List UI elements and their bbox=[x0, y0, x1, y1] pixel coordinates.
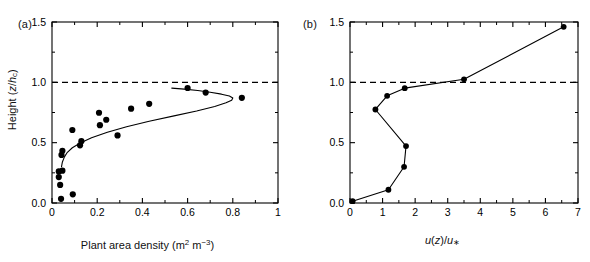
data-point bbox=[401, 164, 407, 170]
panel-b-xlabel: u(z)/u∗ bbox=[295, 234, 590, 247]
y-tick-label: 1.0 bbox=[329, 76, 344, 88]
x-tick-label: 1 bbox=[380, 206, 386, 218]
series-line bbox=[61, 88, 232, 167]
y-tick-label: 0.0 bbox=[31, 197, 46, 209]
axes-frame bbox=[52, 22, 278, 203]
panel-b-plot: 012345670.00.51.01.5 bbox=[295, 0, 590, 262]
x-tick-label: 1 bbox=[275, 206, 281, 218]
panel-b: (b) 012345670.00.51.01.5 u(z)/u∗ bbox=[295, 0, 590, 262]
data-point bbox=[386, 187, 392, 193]
data-point bbox=[384, 93, 390, 99]
data-point bbox=[128, 106, 134, 112]
y-tick-label: 0.5 bbox=[31, 136, 46, 148]
data-point bbox=[70, 191, 76, 197]
data-point bbox=[59, 148, 65, 154]
panel-a-plot: 00.20.40.60.810.00.51.01.5 bbox=[0, 0, 295, 262]
axes-frame bbox=[350, 22, 578, 203]
data-point bbox=[403, 143, 409, 149]
x-tick-label: 0.2 bbox=[90, 206, 105, 218]
data-point bbox=[239, 95, 245, 101]
data-point bbox=[402, 85, 408, 91]
data-point bbox=[96, 110, 102, 116]
x-tick-label: 2 bbox=[412, 206, 418, 218]
x-tick-label: 0.4 bbox=[135, 206, 150, 218]
figure-container: (a) Height (z/hc) 00.20.40.60.810.00.51.… bbox=[0, 0, 590, 262]
data-point bbox=[56, 174, 62, 180]
data-point bbox=[561, 24, 567, 30]
data-point bbox=[57, 182, 63, 188]
y-tick-label: 1.5 bbox=[329, 16, 344, 28]
series-line bbox=[353, 27, 564, 201]
data-point bbox=[58, 196, 64, 202]
data-point bbox=[350, 198, 356, 204]
data-point bbox=[461, 76, 467, 82]
x-tick-label: 0.8 bbox=[225, 206, 240, 218]
x-tick-label: 4 bbox=[477, 206, 483, 218]
data-point bbox=[114, 132, 120, 138]
x-tick-label: 7 bbox=[575, 206, 581, 218]
panel-a: (a) Height (z/hc) 00.20.40.60.810.00.51.… bbox=[0, 0, 295, 262]
data-point bbox=[146, 101, 152, 107]
y-tick-label: 0.0 bbox=[329, 197, 344, 209]
data-point bbox=[59, 168, 65, 174]
data-point bbox=[103, 117, 109, 123]
x-tick-label: 0 bbox=[49, 206, 55, 218]
x-tick-label: 3 bbox=[445, 206, 451, 218]
data-point bbox=[97, 122, 103, 128]
x-tick-label: 6 bbox=[543, 206, 549, 218]
panel-a-xlabel: Plant area density (m2 m−3) bbox=[0, 238, 295, 251]
data-point bbox=[203, 89, 209, 95]
data-point bbox=[373, 107, 379, 113]
data-point bbox=[69, 127, 75, 133]
x-tick-label: 0.6 bbox=[180, 206, 195, 218]
y-tick-label: 1.5 bbox=[31, 16, 46, 28]
y-tick-label: 0.5 bbox=[329, 136, 344, 148]
x-tick-label: 5 bbox=[510, 206, 516, 218]
y-tick-label: 1.0 bbox=[31, 76, 46, 88]
x-tick-label: 0 bbox=[347, 206, 353, 218]
